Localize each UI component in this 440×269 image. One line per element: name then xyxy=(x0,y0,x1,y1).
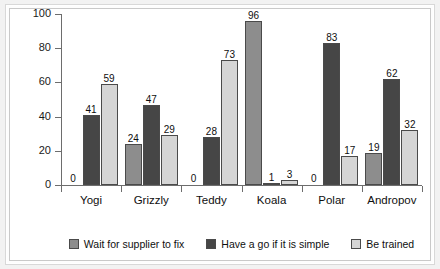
x-axis-tick xyxy=(61,186,62,192)
x-axis-category-label: Yogi xyxy=(61,193,121,207)
legend-item[interactable]: Have a go if it is simple xyxy=(206,238,329,250)
legend-label: Be trained xyxy=(366,238,414,250)
bar[interactable]: 59 xyxy=(101,84,118,185)
chart-screenshot: 020406080100 041592447290287396130831719… xyxy=(0,0,440,269)
chart-legend: Wait for supplier to fixHave a go if it … xyxy=(61,238,422,250)
bar[interactable]: 73 xyxy=(221,60,238,185)
bar-value-label: 0 xyxy=(70,173,76,184)
bar-value-label: 47 xyxy=(146,94,157,105)
bar-value-label: 41 xyxy=(86,104,97,115)
bar[interactable]: 17 xyxy=(341,156,358,185)
legend-item[interactable]: Wait for supplier to fix xyxy=(69,238,185,250)
x-axis-tick xyxy=(242,186,243,192)
bar-value-label: 17 xyxy=(344,145,355,156)
bar[interactable]: 47 xyxy=(143,105,160,185)
bar-value-label: 1 xyxy=(269,172,275,183)
bar-group-bars: 08317 xyxy=(302,14,362,185)
bar-group-bars: 244729 xyxy=(121,14,181,185)
x-axis-tick xyxy=(181,186,182,192)
bar[interactable]: 29 xyxy=(161,135,178,185)
legend-item[interactable]: Be trained xyxy=(351,238,414,250)
bar[interactable]: 32 xyxy=(401,130,418,185)
bar[interactable]: 24 xyxy=(125,144,142,185)
legend-label: Wait for supplier to fix xyxy=(84,238,185,250)
x-axis-category-label: Koala xyxy=(242,193,302,207)
y-axis-tick-label: 0 xyxy=(45,178,51,191)
bar-value-label: 96 xyxy=(248,10,259,21)
bar[interactable]: 19 xyxy=(365,153,382,185)
bar-value-label: 73 xyxy=(224,49,235,60)
bar-value-label: 62 xyxy=(386,68,397,79)
bar-value-label: 29 xyxy=(164,124,175,135)
x-axis-tick xyxy=(302,186,303,192)
x-axis-category-label: Grizzly xyxy=(121,193,181,207)
bar[interactable]: 28 xyxy=(203,137,220,185)
x-axis-tick xyxy=(362,186,363,192)
bar[interactable]: 62 xyxy=(383,79,400,185)
bar-group-bars: 02873 xyxy=(181,14,241,185)
x-axis-category-label: Andropov xyxy=(362,193,422,207)
y-axis-tick-label: 60 xyxy=(39,75,51,88)
x-axis-tick xyxy=(422,186,423,192)
bar-value-label: 59 xyxy=(104,73,115,84)
y-axis-tick-label: 20 xyxy=(39,144,51,157)
bar-value-label: 0 xyxy=(191,173,197,184)
bar[interactable]: 96 xyxy=(245,21,262,185)
bar[interactable]: 41 xyxy=(83,115,100,185)
legend-swatch-icon xyxy=(206,239,216,249)
bar-group: 244729 xyxy=(121,14,181,185)
legend-swatch-icon xyxy=(69,239,79,249)
bar-group-bars: 9613 xyxy=(242,14,302,185)
bar[interactable]: 1 xyxy=(263,183,280,185)
bar-group-bars: 04159 xyxy=(61,14,121,185)
bar-value-label: 3 xyxy=(287,169,293,180)
bar-group: 02873 xyxy=(181,14,241,185)
bar-value-label: 24 xyxy=(128,133,139,144)
bar-value-label: 19 xyxy=(368,142,379,153)
x-axis-category-label: Polar xyxy=(302,193,362,207)
bar-value-label: 32 xyxy=(404,119,415,130)
bar-value-label: 0 xyxy=(311,173,317,184)
bar-group: 08317 xyxy=(302,14,362,185)
bar-value-label: 28 xyxy=(206,126,217,137)
y-axis-tick-label: 80 xyxy=(39,41,51,54)
bar-value-label: 83 xyxy=(326,32,337,43)
y-axis-tick-label: 40 xyxy=(39,110,51,123)
plot-area: 0415924472902873961308317196232 xyxy=(61,14,422,185)
x-axis-category-label: Teddy xyxy=(181,193,241,207)
bar[interactable]: 83 xyxy=(323,43,340,185)
bar-group: 196232 xyxy=(362,14,422,185)
bar-group: 9613 xyxy=(242,14,302,185)
bar-group: 04159 xyxy=(61,14,121,185)
bar-group-bars: 196232 xyxy=(362,14,422,185)
legend-swatch-icon xyxy=(351,239,361,249)
y-axis-tick-label: 100 xyxy=(33,7,51,20)
x-axis-tick xyxy=(121,186,122,192)
legend-label: Have a go if it is simple xyxy=(221,238,329,250)
bar[interactable]: 3 xyxy=(281,180,298,185)
